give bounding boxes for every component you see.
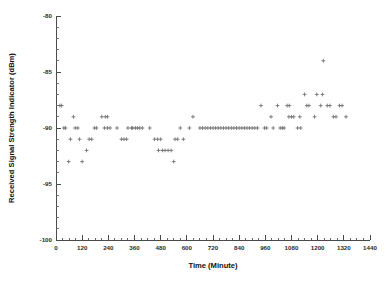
data-point (125, 137, 129, 141)
data-point (256, 126, 260, 130)
data-point (169, 149, 173, 153)
scatter-plot: -80-85-90-95-100012024036048060072084096… (0, 0, 389, 282)
y-tick-label: -90 (43, 124, 53, 131)
data-point (191, 115, 195, 119)
x-tick-label: 360 (129, 244, 140, 251)
data-point (80, 160, 84, 164)
data-point (90, 137, 94, 141)
x-tick-label: 720 (208, 244, 219, 251)
data-point (68, 137, 72, 141)
data-point (176, 137, 180, 141)
x-tick-label: 120 (77, 244, 88, 251)
data-point (307, 104, 311, 108)
data-point (319, 104, 323, 108)
x-tick-label: 1320 (337, 244, 351, 251)
data-point (178, 126, 182, 130)
x-tick-label: 240 (103, 244, 114, 251)
data-point (76, 126, 80, 130)
x-tick-label: 1200 (311, 244, 325, 251)
data-point (95, 126, 99, 130)
y-tick-label: -80 (43, 12, 53, 19)
data-point (315, 93, 319, 97)
x-tick-label: 1440 (363, 244, 377, 251)
data-point (159, 137, 163, 141)
x-tick-label: 1080 (285, 244, 299, 251)
data-point (181, 137, 185, 141)
data-point (172, 160, 176, 164)
data-point (328, 104, 332, 108)
data-markers-group (58, 59, 348, 164)
x-tick-label: 840 (234, 244, 245, 251)
data-point (340, 104, 344, 108)
data-point (188, 126, 192, 130)
data-point (108, 126, 112, 130)
data-point (276, 104, 280, 108)
data-point (67, 160, 71, 164)
data-point (265, 126, 269, 130)
chart-figure: -80-85-90-95-100012024036048060072084096… (0, 0, 389, 282)
data-point (100, 115, 104, 119)
data-point (334, 115, 338, 119)
data-point (269, 115, 273, 119)
data-point (321, 93, 325, 97)
data-point (140, 126, 144, 130)
data-point (313, 115, 317, 119)
tick-labels-group: -80-85-90-95-100012024036048060072084096… (40, 12, 378, 251)
data-point (115, 126, 119, 130)
x-tick-label: 600 (182, 244, 193, 251)
data-point (85, 149, 89, 153)
data-point (106, 115, 110, 119)
data-point (157, 149, 161, 153)
data-point (259, 104, 263, 108)
data-point (271, 126, 275, 130)
data-point (321, 59, 325, 63)
x-tick-label: 0 (54, 244, 58, 251)
data-point (72, 115, 76, 119)
x-tick-label: 480 (156, 244, 167, 251)
data-point (292, 115, 296, 119)
y-tick-label: -95 (43, 180, 53, 187)
data-point (303, 93, 307, 97)
y-axis-title: Received Signal Strength Indicator (dBm) (7, 53, 16, 203)
data-point (299, 126, 303, 130)
y-tick-label: -85 (43, 68, 53, 75)
data-point (287, 104, 291, 108)
x-axis-title: Time (Minute) (188, 261, 238, 270)
data-point (344, 115, 348, 119)
data-point (148, 126, 152, 130)
data-point (78, 137, 82, 141)
data-point (298, 115, 302, 119)
data-point (126, 126, 130, 130)
y-tick-label: -100 (40, 236, 53, 243)
x-tick-label: 960 (260, 244, 271, 251)
